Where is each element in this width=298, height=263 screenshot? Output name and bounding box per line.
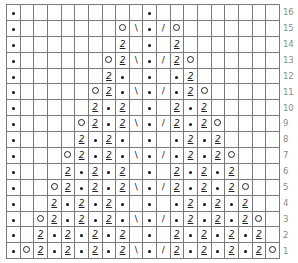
empty-cell	[34, 68, 48, 84]
twisted-stitch-icon: 2	[116, 179, 130, 195]
yarn-over-icon	[184, 52, 198, 68]
k2tog-decrease-icon: /	[156, 211, 170, 227]
purl-dot-icon	[88, 148, 102, 164]
twisted-stitch-icon: 2	[197, 243, 211, 259]
purl-dot-icon	[143, 36, 157, 52]
purl-dot-icon	[170, 132, 184, 148]
empty-cell	[225, 100, 239, 116]
purl-dot-icon	[170, 211, 184, 227]
empty-cell	[252, 52, 266, 68]
twisted-stitch-icon: 2	[116, 227, 130, 243]
empty-cell	[211, 36, 225, 52]
twisted-stitch-icon: 2	[170, 100, 184, 116]
twisted-stitch-icon: 2	[88, 227, 102, 243]
purl-dot-icon	[7, 100, 21, 116]
twisted-stitch-icon: 2	[116, 116, 130, 132]
empty-cell	[20, 179, 34, 195]
empty-cell	[238, 20, 252, 36]
purl-dot-icon	[143, 211, 157, 227]
empty-cell	[20, 100, 34, 116]
twisted-stitch-icon: 2	[61, 227, 75, 243]
empty-cell	[266, 132, 280, 148]
empty-cell	[156, 163, 170, 179]
empty-cell	[252, 195, 266, 211]
empty-cell	[266, 52, 280, 68]
ssk-decrease-icon: \	[129, 84, 143, 100]
empty-cell	[47, 132, 61, 148]
row-number-label: 7	[279, 148, 297, 164]
ssk-decrease-icon: \	[129, 52, 143, 68]
yarn-over-icon	[266, 243, 280, 259]
empty-cell	[266, 211, 280, 227]
purl-dot-icon	[7, 36, 21, 52]
twisted-stitch-icon: 2	[88, 100, 102, 116]
k2tog-decrease-icon: /	[156, 116, 170, 132]
purl-dot-icon	[225, 211, 239, 227]
empty-cell	[156, 132, 170, 148]
empty-cell	[47, 163, 61, 179]
twisted-stitch-icon: 2	[102, 195, 116, 211]
twisted-stitch-icon: 2	[225, 163, 239, 179]
purl-dot-icon	[7, 132, 21, 148]
empty-cell	[129, 195, 143, 211]
purl-dot-icon	[102, 243, 116, 259]
empty-cell	[129, 5, 143, 21]
purl-dot-icon	[47, 243, 61, 259]
empty-cell	[252, 68, 266, 84]
yarn-over-icon	[225, 148, 239, 164]
empty-cell	[20, 36, 34, 52]
ssk-decrease-icon: \	[129, 20, 143, 36]
empty-cell	[47, 5, 61, 21]
empty-cell	[47, 20, 61, 36]
twisted-stitch-icon: 2	[75, 211, 89, 227]
twisted-stitch-icon: 2	[88, 116, 102, 132]
empty-cell	[34, 84, 48, 100]
purl-dot-icon	[197, 132, 211, 148]
empty-cell	[266, 116, 280, 132]
purl-dot-icon	[211, 243, 225, 259]
chart-row: 22\/229	[7, 116, 298, 132]
purl-dot-icon	[75, 227, 89, 243]
purl-dot-icon	[102, 116, 116, 132]
twisted-stitch-icon: 2	[184, 132, 198, 148]
empty-cell	[266, 68, 280, 84]
empty-cell	[266, 148, 280, 164]
empty-cell	[75, 100, 89, 116]
empty-cell	[20, 211, 34, 227]
empty-cell	[238, 5, 252, 21]
purl-dot-icon	[88, 195, 102, 211]
empty-cell	[252, 132, 266, 148]
purl-dot-icon	[143, 68, 157, 84]
chart-row: 2214	[7, 36, 298, 52]
empty-cell	[61, 20, 75, 36]
empty-cell	[238, 148, 252, 164]
row-number-label: 5	[279, 179, 297, 195]
empty-cell	[102, 20, 116, 36]
empty-cell	[34, 148, 48, 164]
twisted-stitch-icon: 2	[170, 179, 184, 195]
twisted-stitch-icon: 2	[34, 227, 48, 243]
twisted-stitch-icon: 2	[170, 52, 184, 68]
purl-dot-icon	[143, 179, 157, 195]
twisted-stitch-icon: 2	[211, 148, 225, 164]
twisted-stitch-icon: 2	[184, 148, 198, 164]
twisted-stitch-icon: 2	[252, 227, 266, 243]
empty-cell	[238, 68, 252, 84]
empty-cell	[129, 100, 143, 116]
empty-cell	[211, 84, 225, 100]
twisted-stitch-icon: 2	[184, 84, 198, 100]
purl-dot-icon	[225, 195, 239, 211]
purl-dot-icon	[143, 227, 157, 243]
empty-cell	[197, 20, 211, 36]
empty-cell	[266, 84, 280, 100]
purl-dot-icon	[211, 163, 225, 179]
empty-cell	[61, 36, 75, 52]
ssk-decrease-icon: \	[129, 243, 143, 259]
chart-row: 22228	[7, 132, 298, 148]
purl-dot-icon	[7, 243, 21, 259]
empty-cell	[252, 148, 266, 164]
purl-dot-icon	[7, 148, 21, 164]
empty-cell	[34, 179, 48, 195]
knitting-chart: 16\/1522142\/21322122\/21122221022\/2292…	[6, 4, 298, 259]
empty-cell	[20, 116, 34, 132]
